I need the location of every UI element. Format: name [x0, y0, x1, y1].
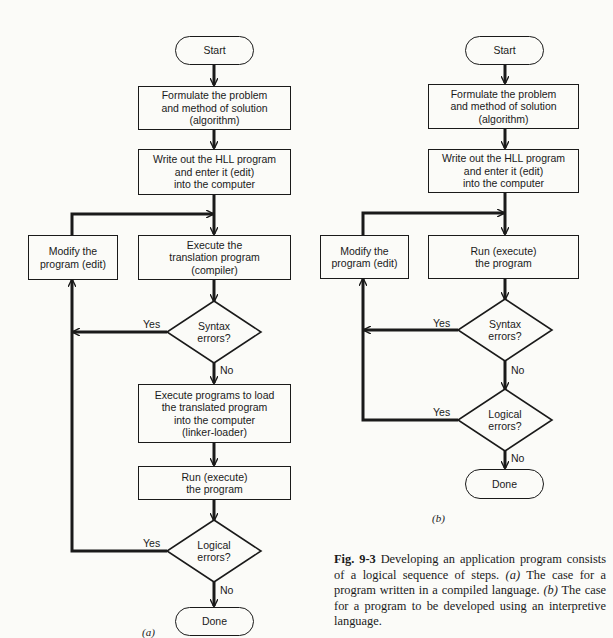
- caption-b-marker: (b): [543, 583, 557, 597]
- modify-program-step-b: Modify the program (edit): [320, 235, 409, 279]
- start-terminal-a: Start: [175, 36, 254, 65]
- panel-b-label: (b): [432, 512, 445, 524]
- figure-caption: Fig. 9-3 Developing an application progr…: [334, 552, 606, 630]
- logical-decision-a: Logical errors?: [177, 532, 251, 570]
- caption-a-marker: (a): [506, 568, 520, 582]
- logical-yes-label-a: Yes: [143, 537, 160, 549]
- panel-a-label: (a): [142, 626, 155, 638]
- logical-yes-label-b: Yes: [433, 406, 450, 418]
- execute-translation-step-a: Execute the translation program (compile…: [138, 235, 291, 280]
- syntax-yes-label-b: Yes: [433, 317, 450, 329]
- figure-canvas: Start Formulate the problem and method o…: [0, 0, 613, 638]
- syntax-no-label-b: No: [511, 364, 524, 376]
- execute-load-step-a: Execute programs to load the translated …: [138, 384, 291, 443]
- modify-program-step-a: Modify the program (edit): [28, 235, 118, 280]
- write-program-step-b: Write out the HLL program and enter it (…: [428, 149, 579, 193]
- syntax-decision-a: Syntax errors?: [177, 313, 251, 351]
- formulate-step-a: Formulate the problem and method of solu…: [138, 86, 291, 130]
- write-program-step-a: Write out the HLL program and enter it (…: [138, 149, 291, 195]
- logical-no-label-b: No: [511, 452, 524, 464]
- syntax-no-label-a: No: [220, 364, 233, 376]
- done-terminal-b: Done: [465, 469, 544, 499]
- run-program-step-b: Run (execute) the program: [428, 235, 579, 279]
- syntax-yes-label-a: Yes: [143, 318, 160, 330]
- done-terminal-a: Done: [175, 607, 254, 636]
- figure-number: Fig. 9-3: [334, 552, 376, 566]
- syntax-decision-b: Syntax errors?: [468, 311, 542, 349]
- run-program-step-a: Run (execute) the program: [138, 466, 291, 500]
- formulate-step-b: Formulate the problem and method of solu…: [428, 84, 579, 129]
- logical-no-label-a: No: [220, 584, 233, 596]
- start-terminal-b: Start: [465, 36, 544, 65]
- logical-decision-b: Logical errors?: [468, 401, 542, 439]
